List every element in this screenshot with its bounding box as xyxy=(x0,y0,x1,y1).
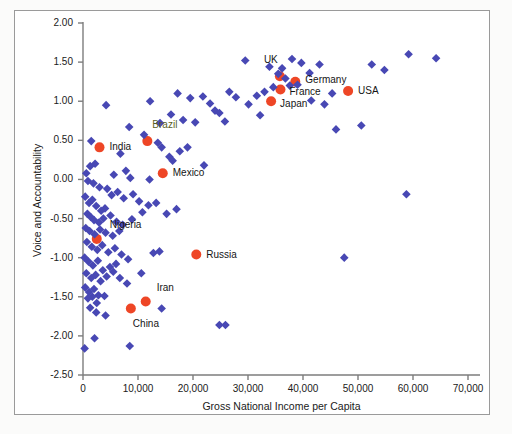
x-tick-label: 60,000 xyxy=(383,384,443,394)
y-tick-label: 2.00 xyxy=(37,18,73,28)
data-point-diamond xyxy=(357,121,366,130)
country-label-russia: Russia xyxy=(206,250,237,260)
data-point-diamond xyxy=(315,60,324,69)
y-tick-label: 1.00 xyxy=(37,96,73,106)
data-point-diamond xyxy=(149,249,158,258)
data-point-diamond xyxy=(244,100,253,109)
data-point-diamond xyxy=(137,269,146,278)
data-point-diamond xyxy=(110,170,119,179)
data-point-diamond xyxy=(145,175,154,184)
data-point-diamond xyxy=(241,56,250,65)
data-point-diamond xyxy=(221,117,230,126)
data-point-diamond xyxy=(92,308,101,317)
country-label-uk: UK xyxy=(264,55,278,65)
x-axis-title: Gross National Income per Capita xyxy=(23,400,512,412)
data-point-circle xyxy=(95,142,105,152)
data-point-diamond xyxy=(124,255,133,264)
data-point-diamond xyxy=(260,88,269,97)
data-point-diamond xyxy=(157,304,166,313)
data-point-diamond xyxy=(328,89,337,98)
data-point-diamond xyxy=(380,66,389,75)
country-label-iran: Iran xyxy=(157,283,174,293)
data-point-diamond xyxy=(125,123,134,132)
data-point-diamond xyxy=(191,118,200,127)
data-point-diamond xyxy=(167,110,176,119)
data-point-diamond xyxy=(340,253,349,262)
scatter-plot-svg xyxy=(15,11,489,414)
data-point-diamond xyxy=(402,190,411,199)
y-axis-title: Voice and Accountability xyxy=(31,144,43,257)
data-point-diamond xyxy=(138,208,147,217)
data-point-diamond xyxy=(172,205,181,214)
country-label-germany: Germany xyxy=(305,75,346,85)
x-tick-label: 0 xyxy=(53,384,113,394)
data-point-diamond xyxy=(173,89,182,98)
country-label-brazil: Brazil xyxy=(152,120,177,130)
data-point-diamond xyxy=(199,92,208,101)
data-point-diamond xyxy=(367,60,376,69)
data-point-diamond xyxy=(125,342,134,351)
data-point-diamond xyxy=(144,201,153,210)
country-label-france: France xyxy=(289,87,320,97)
data-point-circle xyxy=(191,250,201,260)
data-point-diamond xyxy=(119,194,128,203)
data-point-diamond xyxy=(179,116,188,125)
data-point-diamond xyxy=(87,137,96,146)
data-point-diamond xyxy=(100,292,109,301)
data-point-diamond xyxy=(225,88,234,97)
data-point-diamond xyxy=(123,279,132,288)
country-label-japan: Japan xyxy=(280,99,307,109)
data-point-diamond xyxy=(90,334,99,343)
country-label-china: China xyxy=(133,319,159,329)
data-point-diamond xyxy=(404,50,413,59)
x-tick-label: 20,000 xyxy=(163,384,223,394)
data-point-diamond xyxy=(221,321,230,330)
y-tick-label: -1.50 xyxy=(37,292,73,302)
country-label-mexico: Mexico xyxy=(173,168,205,178)
data-point-diamond xyxy=(103,185,112,194)
data-point-diamond xyxy=(155,247,164,256)
data-point-diamond xyxy=(92,299,101,308)
data-point-diamond xyxy=(320,100,329,109)
data-point-diamond xyxy=(104,248,113,257)
data-point-diamond xyxy=(102,101,111,110)
data-point-diamond xyxy=(288,55,297,64)
data-point-circle xyxy=(266,96,276,106)
data-point-diamond xyxy=(117,250,126,259)
data-point-circle xyxy=(158,168,168,178)
country-label-india: India xyxy=(110,142,132,152)
data-point-diamond xyxy=(256,111,265,120)
data-point-circle xyxy=(126,304,136,314)
x-tick-label: 50,000 xyxy=(328,384,388,394)
country-label-usa: USA xyxy=(358,86,379,96)
chart-frame: 2.001.501.000.500.00-0.50-1.00-1.50-2.00… xyxy=(14,10,490,415)
figure-canvas: 2.001.501.000.500.00-0.50-1.00-1.50-2.00… xyxy=(0,0,512,434)
data-point-diamond xyxy=(297,59,306,68)
data-point-circle xyxy=(275,84,285,94)
data-point-diamond xyxy=(86,303,95,312)
data-point-diamond xyxy=(253,91,262,100)
data-point-diamond xyxy=(176,147,185,156)
x-tick-label: 40,000 xyxy=(273,384,333,394)
data-point-diamond xyxy=(183,143,192,152)
y-tick-label: -2.50 xyxy=(37,370,73,380)
data-point-diamond xyxy=(80,344,89,353)
data-point-circle xyxy=(343,86,353,96)
data-point-diamond xyxy=(129,190,138,199)
data-point-diamond xyxy=(232,93,241,102)
data-point-diamond xyxy=(186,94,195,103)
data-point-diamond xyxy=(122,167,131,176)
data-point-diamond xyxy=(135,197,144,206)
x-tick-label: 70,000 xyxy=(438,384,498,394)
data-point-diamond xyxy=(111,244,120,253)
data-point-diamond xyxy=(146,97,155,106)
data-point-diamond xyxy=(162,210,171,219)
x-tick-label: 10,000 xyxy=(108,384,168,394)
data-point-diamond xyxy=(152,199,161,208)
data-point-diamond xyxy=(126,174,135,183)
data-point-diamond xyxy=(96,277,105,286)
data-point-diamond xyxy=(432,54,441,63)
y-tick-label: 1.50 xyxy=(37,57,73,67)
country-label-nigeria: Nigeria xyxy=(110,220,142,230)
x-tick-label: 30,000 xyxy=(218,384,278,394)
